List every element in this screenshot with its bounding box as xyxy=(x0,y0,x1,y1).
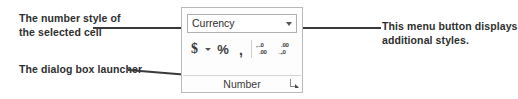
callout-menu-button-line1: This menu button displays xyxy=(382,19,518,33)
increase-decimal-icon[interactable]: ← .0 .00 xyxy=(255,38,277,60)
callout-dialog-launcher-line1: The dialog box launcher xyxy=(19,62,142,76)
chevron-down-icon[interactable] xyxy=(281,15,296,32)
number-format-combo[interactable]: Currency xyxy=(187,14,297,33)
percent-style-button[interactable]: % xyxy=(213,38,233,60)
callout-number-style: The number style of the selected cell xyxy=(19,11,121,39)
callout-menu-button-line2: additional styles. xyxy=(382,33,518,47)
decrease-decimal-icon[interactable]: → .00 .0 xyxy=(277,38,299,60)
number-button-row: $ % , ← .0 .00 → .00 .0 xyxy=(187,37,299,61)
increase-decimal-bottom: .00 xyxy=(259,49,267,55)
dialog-box-launcher-icon[interactable] xyxy=(290,79,299,88)
number-group-label: Number xyxy=(223,78,260,90)
ribbon-group-number: Currency $ % , ← .0 .00 → .00 .0 Number xyxy=(181,7,303,93)
accounting-format-button[interactable]: $ xyxy=(187,38,202,60)
comma-style-button[interactable]: , xyxy=(233,38,249,60)
callout-menu-button: This menu button displays additional sty… xyxy=(382,19,518,47)
toolbar-divider xyxy=(251,40,252,58)
number-group-footer: Number xyxy=(183,75,301,92)
increase-decimal-top: .0 xyxy=(259,42,264,48)
callout-number-style-line1: The number style of xyxy=(19,11,121,25)
leader-line-number-style xyxy=(93,27,189,29)
callout-dialog-launcher: The dialog box launcher xyxy=(19,62,142,76)
leader-line-menu-button xyxy=(303,27,381,29)
decrease-decimal-top: .00 xyxy=(281,42,289,48)
decrease-decimal-bottom: .0 xyxy=(281,49,286,55)
chevron-down-icon[interactable] xyxy=(202,38,213,60)
number-format-value: Currency xyxy=(188,18,281,29)
